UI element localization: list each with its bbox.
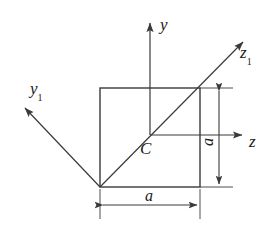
axis-label-z1: z1 <box>240 44 252 64</box>
dimension-label-height: a <box>200 138 216 146</box>
axis-label-y1-subscript: 1 <box>38 92 43 103</box>
diagram-canvas: y z z1 y1 C a a <box>0 0 275 236</box>
dimension-label-width: a <box>145 188 153 204</box>
axis-label-y1: y1 <box>30 80 43 100</box>
axis-label-z: z <box>249 133 256 150</box>
centroid-label: C <box>140 140 151 157</box>
axis-label-z1-base: z <box>240 43 247 62</box>
axis-label-y1-base: y <box>30 79 38 98</box>
diagram-vector-layer <box>0 0 275 236</box>
axis-label-y: y <box>160 16 168 33</box>
axis-y1-line <box>25 108 100 187</box>
axis-z1-line <box>100 42 243 187</box>
axis-label-z1-subscript: 1 <box>247 56 252 67</box>
